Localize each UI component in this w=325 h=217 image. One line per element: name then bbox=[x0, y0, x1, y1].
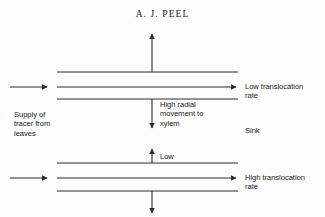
label-sink: Sink bbox=[245, 126, 260, 135]
label-high-translocation-rate: High translocation rate bbox=[245, 173, 305, 192]
label-high-radial-movement-to-xylem: High radial movement to xylem bbox=[160, 100, 203, 128]
label-low-translocation-rate: Low translocation rate bbox=[245, 82, 303, 101]
diagram-figure: A. J. PEEL Supply of tracer bbox=[0, 0, 325, 217]
label-supply-of-tracer-from-leaves: Supply of tracer from leaves bbox=[14, 110, 50, 138]
label-low: Low bbox=[160, 152, 174, 161]
